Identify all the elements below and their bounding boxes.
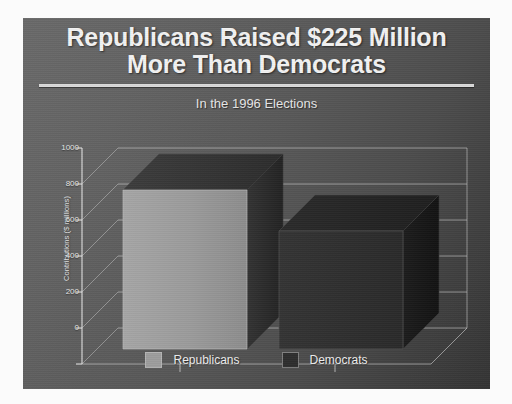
title-line-1: Republicans Raised $225 Million [23, 24, 490, 51]
slide-subtitle: In the 1996 Elections [23, 96, 490, 112]
legend-item-republicans[interactable]: Republicans [145, 352, 239, 368]
legend-swatch-democrats-icon [282, 352, 299, 368]
title-line-2: More Than Democrats [23, 51, 490, 78]
bar-republicans-front [123, 190, 247, 349]
title-divider-rule [39, 84, 474, 87]
chart-legend: Republicans Democrats [23, 352, 490, 368]
slide-title: Republicans Raised $225 Million More Tha… [23, 24, 490, 78]
plot-area [35, 128, 480, 383]
legend-label-democrats: Democrats [310, 353, 368, 367]
y-axis [76, 148, 82, 364]
bar-republicans[interactable] [123, 154, 283, 349]
bar-democrats[interactable] [279, 195, 439, 349]
bar-chart: Contributions ($ millions) 0 200 400 600… [35, 128, 480, 383]
presentation-slide: Republicans Raised $225 Million More Tha… [23, 18, 490, 389]
bar-democrats-front [279, 231, 403, 349]
gridlines-side-wall [82, 148, 118, 364]
legend-label-republicans: Republicans [173, 353, 239, 367]
legend-item-democrats[interactable]: Democrats [282, 352, 368, 368]
legend-swatch-republicans-icon [145, 352, 162, 368]
slide-frame: Republicans Raised $225 Million More Tha… [0, 0, 512, 404]
